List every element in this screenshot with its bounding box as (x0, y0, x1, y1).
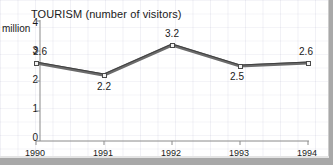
data-label-1990: 2.6 (25, 46, 55, 57)
data-point-1993[interactable] (238, 64, 243, 69)
data-point-1994[interactable] (306, 61, 311, 66)
data-label-1992: 3.2 (157, 28, 187, 39)
chart-plot-area (0, 0, 333, 165)
data-point-1991[interactable] (102, 73, 107, 78)
data-label-1991: 2.2 (89, 81, 119, 92)
data-point-1990[interactable] (34, 61, 39, 66)
data-label-1993: 2.5 (222, 71, 252, 82)
series-line-visitors (36, 45, 308, 75)
right-border (329, 0, 333, 165)
bottom-border (0, 158, 333, 165)
data-label-1994: 2.6 (291, 46, 321, 57)
chart-screenshot: TOURISM (number of visitors) million 4 3… (0, 0, 333, 165)
data-point-1992[interactable] (170, 43, 175, 48)
series-line-highlight (36, 44, 308, 74)
